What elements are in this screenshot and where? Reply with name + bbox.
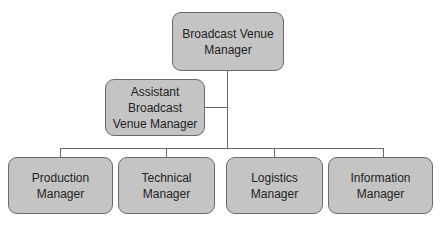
node-production-manager: Production Manager xyxy=(8,157,113,214)
node-information-manager: Information Manager xyxy=(328,157,433,214)
connector-logistics xyxy=(274,148,275,157)
node-broadcast-venue-manager: Broadcast Venue Manager xyxy=(172,12,284,71)
node-label: Production Manager xyxy=(9,170,112,202)
node-label: Information Manager xyxy=(329,170,432,202)
node-logistics-manager: Logistics Manager xyxy=(226,157,323,214)
node-assistant-broadcast-venue-manager: Assistant Broadcast Venue Manager xyxy=(105,79,205,136)
connector-bus xyxy=(60,148,384,149)
connector-production xyxy=(60,148,61,157)
node-technical-manager: Technical Manager xyxy=(118,157,215,214)
node-label: Assistant Broadcast Venue Manager xyxy=(106,84,204,132)
connector-technical xyxy=(166,148,167,157)
node-label: Logistics Manager xyxy=(227,170,322,202)
connector-assistant xyxy=(204,107,228,108)
connector-information xyxy=(383,148,384,157)
node-label: Broadcast Venue Manager xyxy=(182,26,273,58)
connector-root-vertical xyxy=(227,70,228,149)
node-label: Technical Manager xyxy=(119,170,214,202)
